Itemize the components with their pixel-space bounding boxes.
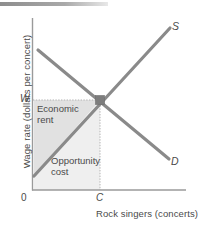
opportunity-cost-label: Opportunity cost bbox=[51, 155, 109, 177]
opportunity-cost-label-line1: Opportunity bbox=[51, 155, 100, 166]
origin-label: 0 bbox=[21, 192, 27, 203]
x-axis-label: Rock singers (concerts) bbox=[96, 208, 198, 219]
economics-figure: Wage rate (dollars per concert) Rock sin… bbox=[0, 0, 203, 227]
economic-rent-label: Economic rent bbox=[37, 103, 93, 125]
y-tick-label-wage: W bbox=[20, 93, 29, 104]
x-tick-label-quantity: C bbox=[96, 192, 103, 203]
economic-rent-label-line1: Economic bbox=[37, 103, 79, 114]
demand-curve-label: D bbox=[171, 155, 179, 167]
economic-rent-label-line2: rent bbox=[37, 114, 53, 125]
opportunity-cost-label-line2: cost bbox=[51, 166, 68, 177]
equilibrium-point-marker bbox=[96, 96, 105, 105]
supply-curve-label: S bbox=[172, 20, 179, 32]
